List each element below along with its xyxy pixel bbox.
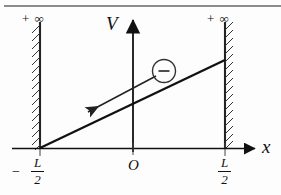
right-wall-infinity-label: + ∞ <box>207 12 230 25</box>
left-position-numerator: L <box>32 156 43 170</box>
left-position-label: L 2 <box>31 156 44 186</box>
right-position-label: L 2 <box>218 156 231 186</box>
left-position-denominator: 2 <box>32 173 43 187</box>
left-wall <box>32 22 40 156</box>
right-wall <box>225 22 233 156</box>
left-wall-infinity-label: + ∞ <box>22 12 45 25</box>
potential-energy-diagram: + ∞ + ∞ V x O − L 2 L 2 <box>0 0 281 195</box>
v-axis-label: V <box>106 14 118 33</box>
right-wall-hatching <box>225 22 233 149</box>
origin-label: O <box>128 158 139 173</box>
right-position-denominator: 2 <box>219 173 230 187</box>
force-arrow <box>88 76 156 112</box>
right-position-numerator: L <box>219 156 230 170</box>
left-wall-hatching <box>32 25 40 150</box>
x-axis-label: x <box>262 137 270 156</box>
left-position-minus-sign: − <box>12 164 20 180</box>
